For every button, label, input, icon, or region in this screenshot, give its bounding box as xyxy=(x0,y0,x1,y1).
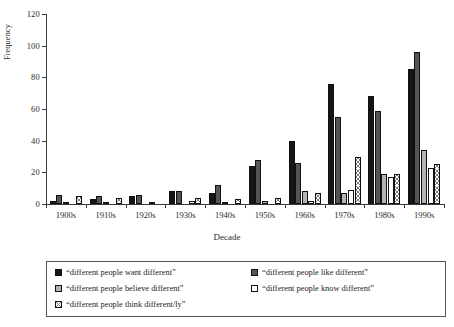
legend-item[interactable]: “different people want different” xyxy=(55,268,176,277)
bar-group xyxy=(129,14,161,204)
bar-group xyxy=(249,14,281,204)
bar xyxy=(90,199,96,204)
x-tick xyxy=(86,204,87,208)
chart-legend: “different people want different”“differ… xyxy=(46,261,446,317)
x-axis-label: Decade xyxy=(0,232,454,242)
bar xyxy=(421,150,427,204)
bar xyxy=(215,185,221,204)
bar-group xyxy=(408,14,440,204)
bar xyxy=(408,69,414,204)
x-tick xyxy=(444,204,445,208)
bar xyxy=(388,177,394,204)
y-tick-label: 80 xyxy=(31,72,40,82)
bar xyxy=(56,195,62,205)
y-tick xyxy=(42,141,46,142)
bar xyxy=(381,174,387,204)
legend-label: “different people like different” xyxy=(262,268,368,277)
bar-chart-figure: Frequency Decade 020406080100120 1900s19… xyxy=(0,0,454,327)
x-tick-label: 1940s xyxy=(215,210,235,220)
legend-item[interactable]: “different people think different/ly” xyxy=(55,300,185,309)
bar-group xyxy=(90,14,122,204)
y-tick-label: 20 xyxy=(31,167,40,177)
x-tick-label: 1930s xyxy=(175,210,195,220)
bar xyxy=(289,141,295,204)
bar-group xyxy=(368,14,400,204)
bar xyxy=(295,163,301,204)
bar xyxy=(209,193,215,204)
bar-group xyxy=(328,14,360,204)
x-tick xyxy=(285,204,286,208)
bar xyxy=(235,199,241,204)
legend-label: “different people think different/ly” xyxy=(66,300,185,309)
x-tick-label: 1980s xyxy=(374,210,394,220)
plot-area: 020406080100120 1900s1910s1920s1930s1940… xyxy=(46,14,444,205)
bar xyxy=(428,168,434,204)
bar xyxy=(434,164,440,204)
bar xyxy=(308,201,314,204)
legend-swatch-icon xyxy=(251,269,258,276)
bar xyxy=(222,202,228,204)
legend-label: “different people want different” xyxy=(66,268,176,277)
x-tick xyxy=(325,204,326,208)
bar xyxy=(189,201,195,204)
y-axis-label: Frequency xyxy=(2,24,12,60)
bar-group xyxy=(50,14,82,204)
y-tick xyxy=(42,77,46,78)
x-tick xyxy=(126,204,127,208)
bar xyxy=(394,174,400,204)
bar-group xyxy=(289,14,321,204)
y-tick-label: 120 xyxy=(27,9,40,19)
x-tick-label: 1910s xyxy=(96,210,116,220)
bar xyxy=(149,202,155,204)
legend-swatch-icon xyxy=(55,285,62,292)
y-axis-line xyxy=(46,14,47,205)
legend-swatch-icon xyxy=(55,269,62,276)
legend-label: “different people believe different” xyxy=(66,284,184,293)
bar xyxy=(368,96,374,204)
bar xyxy=(335,117,341,204)
x-tick xyxy=(46,204,47,208)
y-tick xyxy=(42,14,46,15)
legend-swatch-icon xyxy=(251,285,258,292)
bar xyxy=(63,202,69,204)
y-tick-label: 0 xyxy=(36,199,40,209)
x-tick xyxy=(165,204,166,208)
y-tick xyxy=(42,109,46,110)
x-tick-label: 1920s xyxy=(135,210,155,220)
bar-group xyxy=(209,14,241,204)
y-tick-label: 60 xyxy=(31,104,40,114)
bar xyxy=(50,201,56,204)
x-tick-label: 1900s xyxy=(56,210,76,220)
bar xyxy=(348,190,354,204)
bar xyxy=(315,193,321,204)
y-tick xyxy=(42,172,46,173)
x-tick-label: 1960s xyxy=(295,210,315,220)
bar xyxy=(116,198,122,204)
bar xyxy=(302,191,308,204)
x-tick xyxy=(364,204,365,208)
y-tick-label: 100 xyxy=(27,41,40,51)
legend-item[interactable]: “different people like different” xyxy=(251,268,368,277)
bar xyxy=(169,191,175,204)
bar xyxy=(341,193,347,204)
y-tick-label: 40 xyxy=(31,136,40,146)
bar xyxy=(129,196,135,204)
legend-swatch-icon xyxy=(55,301,62,308)
bar xyxy=(262,201,268,204)
legend-item[interactable]: “different people believe different” xyxy=(55,284,184,293)
bar xyxy=(414,52,420,204)
bar xyxy=(76,196,82,204)
legend-item[interactable]: “different people know different” xyxy=(251,284,374,293)
bar xyxy=(328,84,334,204)
bar xyxy=(355,157,361,205)
x-tick xyxy=(205,204,206,208)
bar xyxy=(275,198,281,204)
bar xyxy=(136,195,142,205)
bar xyxy=(96,196,102,204)
bar xyxy=(255,160,261,204)
bar-group xyxy=(169,14,201,204)
y-tick xyxy=(42,46,46,47)
bar xyxy=(176,191,182,204)
x-tick xyxy=(245,204,246,208)
x-tick xyxy=(404,204,405,208)
